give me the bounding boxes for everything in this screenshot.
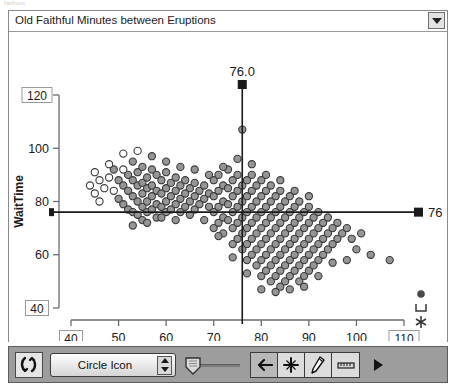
y-tick-label-100: 100: [28, 142, 49, 156]
data-point[interactable]: [267, 182, 274, 189]
data-point[interactable]: [106, 161, 113, 168]
y-tick-label-40: 40: [30, 302, 44, 316]
y-tick-label-120: 120: [27, 89, 47, 103]
data-point[interactable]: [367, 251, 374, 258]
x-tick-label-60: 60: [159, 331, 173, 341]
data-point[interactable]: [343, 225, 350, 232]
data-point[interactable]: [324, 214, 331, 221]
data-point[interactable]: [220, 163, 227, 170]
x-tick-label-50: 50: [112, 331, 126, 341]
data-point[interactable]: [144, 174, 151, 181]
pencil-glyph: [311, 356, 325, 374]
data-point[interactable]: [291, 187, 298, 194]
data-point[interactable]: [348, 235, 355, 242]
data-point[interactable]: [177, 163, 184, 170]
x-tick-label-100: 100: [346, 331, 367, 341]
data-point[interactable]: [91, 190, 98, 197]
data-point[interactable]: [191, 179, 198, 186]
vertical-handle[interactable]: [238, 80, 247, 89]
data-point[interactable]: [258, 286, 265, 293]
data-point[interactable]: [229, 254, 236, 261]
arrow-left-icon[interactable]: [251, 353, 278, 377]
data-point[interactable]: [158, 177, 165, 184]
x-tick-label-70: 70: [207, 331, 221, 341]
data-point[interactable]: [158, 214, 165, 221]
data-point[interactable]: [234, 155, 241, 162]
play-triangle-icon[interactable]: [368, 352, 388, 378]
data-point[interactable]: [301, 283, 308, 290]
data-point[interactable]: [248, 161, 255, 168]
shield-slider-handle-icon[interactable]: [184, 356, 202, 376]
data-point[interactable]: [205, 171, 212, 178]
data-point[interactable]: [191, 166, 198, 173]
data-point[interactable]: [224, 185, 231, 192]
data-point[interactable]: [106, 174, 113, 181]
stepper-arrows-icon[interactable]: [157, 356, 172, 375]
icon-type-select-value: Circle Icon: [78, 359, 148, 371]
data-point[interactable]: [358, 230, 365, 237]
data-point[interactable]: [172, 217, 179, 224]
data-point[interactable]: [215, 233, 222, 240]
y-tick-label-60: 60: [35, 248, 49, 262]
rerandomize-glyph: [19, 356, 39, 374]
data-point[interactable]: [286, 286, 293, 293]
rerandomize-icon[interactable]: [15, 352, 43, 378]
data-point[interactable]: [163, 158, 170, 165]
data-point[interactable]: [243, 270, 250, 277]
chevron-down-icon[interactable]: [428, 12, 445, 29]
data-point[interactable]: [224, 201, 231, 208]
data-point[interactable]: [139, 163, 146, 170]
data-point[interactable]: [248, 171, 255, 178]
data-point[interactable]: [201, 217, 208, 224]
data-point[interactable]: [277, 187, 284, 194]
point-size-slider[interactable]: [184, 353, 240, 377]
y-axis-title: WaitTime: [12, 175, 26, 228]
data-point[interactable]: [120, 150, 127, 157]
crosshair-plus-glyph: [283, 357, 299, 373]
data-point[interactable]: [234, 171, 241, 178]
data-point[interactable]: [101, 185, 108, 192]
data-point[interactable]: [144, 219, 151, 226]
data-point[interactable]: [129, 158, 136, 165]
data-point[interactable]: [96, 177, 103, 184]
data-point[interactable]: [120, 166, 127, 173]
filled-circle-marker[interactable]: [417, 290, 425, 298]
data-point[interactable]: [110, 187, 117, 194]
page-title: Old Faithful Minutes between Eruptions: [15, 14, 216, 26]
data-point[interactable]: [91, 169, 98, 176]
data-point[interactable]: [134, 147, 141, 154]
data-point[interactable]: [277, 177, 284, 184]
crosshair-plus-icon[interactable]: [278, 353, 305, 377]
scatter-plot-area[interactable]: 76.076 406080100120WaitTime4050607080901…: [9, 32, 447, 342]
data-point[interactable]: [262, 171, 269, 178]
data-point[interactable]: [129, 222, 136, 229]
data-point[interactable]: [172, 174, 179, 181]
data-point[interactable]: [296, 198, 303, 205]
data-point[interactable]: [182, 177, 189, 184]
data-point[interactable]: [386, 257, 393, 264]
ghost-caption: fathom: [4, 0, 124, 7]
data-point[interactable]: [96, 198, 103, 205]
data-point[interactable]: [148, 153, 155, 160]
y-tick-label-80: 80: [35, 195, 49, 209]
horizontal-handle[interactable]: [414, 208, 423, 217]
icon-type-select[interactable]: Circle Icon: [50, 353, 176, 377]
chevron-down-glyph: [432, 18, 442, 24]
data-point[interactable]: [86, 182, 93, 189]
scatter-plot-svg[interactable]: 76.076 406080100120WaitTime4050607080901…: [9, 32, 447, 341]
window-titlebar: Old Faithful Minutes between Eruptions: [9, 11, 447, 32]
data-point[interactable]: [353, 246, 360, 253]
data-point[interactable]: [201, 182, 208, 189]
data-point[interactable]: [215, 171, 222, 178]
pencil-icon[interactable]: [305, 353, 332, 377]
data-point[interactable]: [305, 203, 312, 210]
data-point[interactable]: [305, 193, 312, 200]
data-point[interactable]: [315, 273, 322, 280]
data-point[interactable]: [272, 288, 279, 295]
data-point[interactable]: [163, 169, 170, 176]
ruler-icon[interactable]: [332, 353, 359, 377]
data-point[interactable]: [224, 217, 231, 224]
data-point[interactable]: [343, 257, 350, 264]
data-point[interactable]: [329, 259, 336, 266]
data-point[interactable]: [334, 219, 341, 226]
